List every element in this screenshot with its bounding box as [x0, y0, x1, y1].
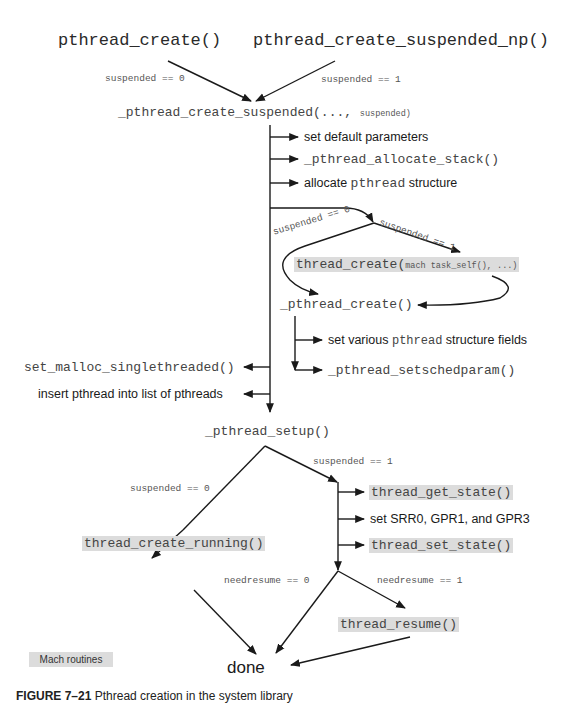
edge-label-top-left: suspended == 0: [105, 74, 185, 84]
step-allocate-post: structure: [409, 176, 458, 190]
node-pthread-create: pthread_create(): [58, 32, 221, 49]
node-pthread-create-suspended-main: _pthread_create_suspended(...,: [118, 105, 352, 120]
node-thread-create-main: thread_create(: [296, 257, 405, 272]
step-set-default-parameters: set default parameters: [304, 131, 428, 144]
node-pthread-create-suspended-arg: suspended): [360, 109, 411, 119]
node-thread-create-running: thread_create_running(): [82, 536, 265, 551]
step-set-fields-mono: pthread: [392, 334, 442, 348]
edge-label-resume-left: needresume == 0: [224, 576, 310, 586]
step-allocate-pthread-structure: allocate pthread structure: [304, 177, 457, 190]
node-pthread-setup: _pthread_setup(): [205, 425, 330, 438]
step-pthread-allocate-stack: _pthread_allocate_stack(): [304, 153, 499, 166]
step-set-various-fields: set various pthread structure fields: [328, 334, 527, 347]
node-thread-resume: thread_resume(): [338, 617, 459, 632]
node-pthread-create-suspended-np: pthread_create_suspended_np(): [253, 32, 549, 49]
node-underscore-pthread-create: _pthread_create(): [280, 298, 413, 311]
step-set-fields-pre: set various: [328, 333, 388, 347]
legend-mach-routines: Mach routines: [29, 652, 113, 667]
figure-number: FIGURE 7–21: [16, 689, 91, 703]
node-thread-create-args: mach task_self(), ...): [405, 261, 517, 271]
figure-caption-text: Pthread creation in the system library: [95, 689, 293, 703]
edge-label-setup-left: suspended == 0: [130, 484, 210, 494]
edge-label-setup-right: suspended == 1: [313, 457, 393, 467]
figure-caption: FIGURE 7–21 Pthread creation in the syst…: [16, 690, 293, 702]
step-insert-pthread: insert pthread into list of pthreads: [38, 388, 223, 401]
step-set-srr0-gpr1-gpr3: set SRR0, GPR1, and GPR3: [370, 513, 530, 526]
edge-label-top-right: suspended == 1: [321, 75, 401, 85]
step-allocate-mono: pthread: [351, 176, 406, 191]
edge-label-resume-right: needresume == 1: [377, 576, 463, 586]
node-pthread-create-suspended: _pthread_create_suspended(..., suspended…: [118, 106, 411, 119]
node-thread-create: thread_create(mach task_self(), ...): [294, 257, 519, 272]
node-thread-set-state: thread_set_state(): [369, 538, 513, 553]
step-set-malloc-singlethreaded: set_malloc_singlethreaded(): [24, 361, 235, 374]
step-set-fields-post: structure fields: [446, 333, 527, 347]
node-done: done: [227, 659, 265, 676]
step-allocate-pre: allocate: [304, 176, 347, 190]
node-thread-get-state: thread_get_state(): [369, 485, 513, 500]
step-pthread-setschedparam: _pthread_setschedparam(): [328, 364, 515, 377]
